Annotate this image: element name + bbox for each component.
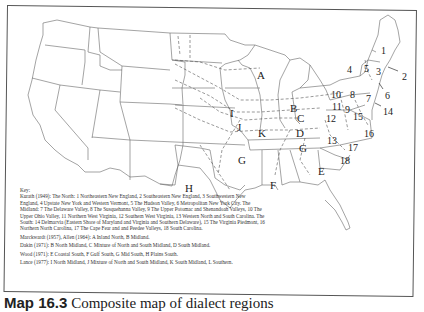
key-dakin: Dakin (1971): B North Midland, C Mixture… [20,242,415,248]
region-number-11: 11 [332,102,342,112]
region-letter-C: C [297,113,304,124]
caption-title: Composite map of dialect regions [71,295,273,311]
region-letter-A: A [257,70,265,81]
key-marckwardt: Marckwardt (1957), Allen (1964): A Inlan… [20,234,415,240]
region-number-13: 13 [327,136,337,146]
region-letter-G: G [238,155,246,166]
region-number-10: 10 [331,90,341,100]
region-letter-I: I [230,108,234,119]
figure-caption: Map 16.3 Composite map of dialect region… [4,294,274,312]
region-number-8: 8 [350,90,355,100]
region-number-9: 9 [345,105,350,115]
region-number-6: 6 [385,91,390,101]
region-number-4: 4 [347,65,352,75]
region-letter-J: J [237,122,241,133]
region-number-12: 12 [326,114,336,124]
region-letter-E: E [318,166,325,177]
key-lance: Lance (1977): I North Midland, J Mixture… [20,259,415,265]
region-number-1: 1 [381,46,386,56]
region-number-16: 16 [364,129,374,139]
map-key: Key: Kurath (1949): The North: 1 Northea… [20,187,415,265]
region-number-7: 7 [366,94,371,104]
caption-number: Map 16.3 [4,294,67,311]
key-wood: Wood (1971): E Coastal South, F Gulf Sou… [20,251,415,257]
region-letter-D: D [296,128,304,139]
region-number-14: 14 [383,107,393,117]
region-letter-G: G [299,143,307,154]
region-number-15: 15 [353,112,363,122]
region-number-5: 5 [364,64,369,74]
key-kurath: Kurath (1949): The North: 1 Northeastern… [20,193,265,231]
region-number-3: 3 [376,67,381,77]
region-letter-K: K [258,128,266,139]
region-number-17: 17 [348,143,358,153]
region-number-18: 18 [340,156,350,166]
region-number-2: 2 [402,72,407,82]
